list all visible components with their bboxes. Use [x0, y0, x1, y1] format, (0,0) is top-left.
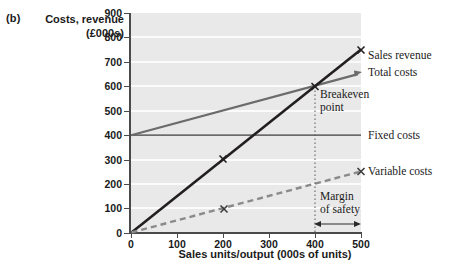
series-label-sales-revenue: Sales revenue — [368, 49, 432, 61]
margin-of-safety-arrowhead-right — [354, 221, 361, 227]
margin-annotation-line2: of safety — [320, 203, 360, 216]
series-label-variable-costs: Variable costs — [368, 165, 432, 177]
margin-annotation-line1: Margin — [320, 190, 360, 203]
series-label-total-costs: Total costs — [368, 66, 417, 78]
margin-of-safety-arrowhead-left — [314, 221, 321, 227]
series-total-costs-arrow-marker — [354, 71, 362, 77]
margin-of-safety-annotation: Margin of safety — [320, 190, 360, 216]
breakeven-annotation-line1: Breakeven — [320, 88, 369, 101]
breakeven-chart-figure: (b) Costs, revenue (£000s) 900 800 700 6… — [0, 0, 459, 268]
breakeven-point-annotation: Breakeven point — [320, 88, 369, 114]
series-label-fixed-costs: Fixed costs — [368, 129, 420, 141]
breakeven-annotation-line2: point — [320, 101, 369, 114]
